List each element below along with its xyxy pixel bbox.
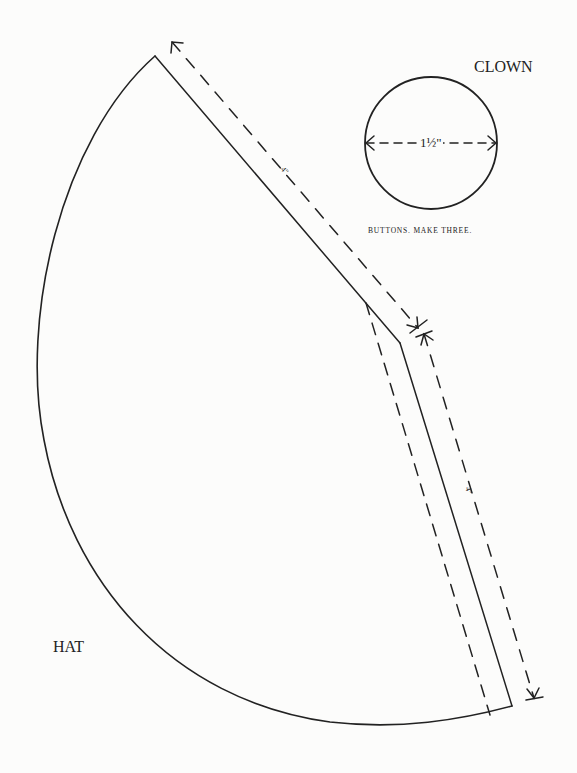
pattern-sheet: CLOWN 1½" BUTTONS. MAKE THREE. 4" 4" HAT	[0, 0, 577, 773]
hat-right-edge	[400, 343, 512, 706]
dimension-line-right	[424, 334, 534, 698]
button-diameter-label: 1½"	[419, 135, 443, 151]
hat-fold-line	[366, 303, 490, 715]
hat-outline	[37, 56, 512, 725]
pattern-title: CLOWN	[474, 58, 533, 76]
hat-upper-edge	[155, 56, 400, 343]
pattern-drawing	[0, 0, 577, 773]
hat-label: HAT	[53, 638, 84, 656]
buttons-caption: BUTTONS. MAKE THREE.	[368, 226, 472, 235]
